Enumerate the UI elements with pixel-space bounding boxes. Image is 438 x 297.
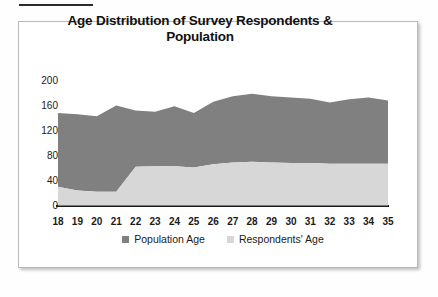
x-axis-tick-label: 22 (130, 216, 141, 227)
x-axis-tick-label: 34 (363, 216, 374, 227)
x-axis-tick-label: 25 (188, 216, 199, 227)
legend-item-respondents-age[interactable]: Respondents' Age (227, 233, 324, 245)
page-canvas: Age Distribution of Survey Respondents &… (0, 0, 438, 297)
x-axis-tick-label: 27 (227, 216, 238, 227)
legend-label-population-age: Population Age (134, 233, 205, 245)
legend-item-population-age[interactable]: Population Age (122, 233, 205, 245)
x-axis-tick-label: 29 (266, 216, 277, 227)
x-axis-labels: 181920212223242526272829303132333435 (58, 216, 388, 230)
x-axis-tick-label: 32 (324, 216, 335, 227)
x-axis-tick-label: 28 (247, 216, 258, 227)
x-axis-tick-label: 30 (285, 216, 296, 227)
x-axis-tick-label: 20 (91, 216, 102, 227)
x-axis-tick-label: 19 (72, 216, 83, 227)
x-axis-tick-label: 23 (149, 216, 160, 227)
x-axis-tick-label: 24 (169, 216, 180, 227)
area-chart-plot (0, 0, 438, 297)
chart-legend: Population Age Respondents' Age (58, 233, 388, 245)
legend-swatch-population-age (122, 236, 129, 243)
legend-label-respondents-age: Respondents' Age (239, 233, 324, 245)
x-axis-tick-label: 31 (305, 216, 316, 227)
x-axis-tick-label: 35 (382, 216, 393, 227)
x-axis-tick-label: 18 (52, 216, 63, 227)
x-axis-tick-label: 26 (208, 216, 219, 227)
x-axis-tick-label: 33 (344, 216, 355, 227)
x-axis-tick-label: 21 (111, 216, 122, 227)
legend-swatch-respondents-age (227, 236, 234, 243)
